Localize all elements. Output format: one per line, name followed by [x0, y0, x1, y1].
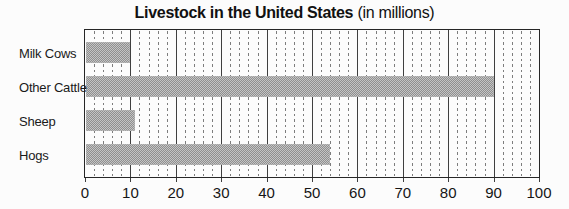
x-tick-label-20: 20 — [167, 184, 184, 201]
x-axis-tick — [494, 178, 495, 182]
grid-minor-line — [430, 31, 431, 176]
grid-minor-line — [366, 31, 367, 176]
x-tick-label-70: 70 — [394, 184, 411, 201]
grid-minor-line — [512, 31, 513, 176]
x-tick-label-10: 10 — [122, 184, 139, 201]
chart-page: Livestock in the United States (in milli… — [0, 0, 569, 209]
x-tick-label-80: 80 — [440, 184, 457, 201]
x-axis-tick — [176, 178, 177, 182]
bar-sheep — [86, 110, 135, 131]
grid-minor-line — [530, 31, 531, 176]
grid-minor-line — [485, 31, 486, 176]
grid-minor-line — [376, 31, 377, 176]
bar-hogs — [86, 144, 330, 165]
x-axis-tick — [267, 178, 268, 182]
grid-major-line — [403, 30, 404, 177]
x-tick-label-30: 30 — [213, 184, 230, 201]
grid-minor-line — [439, 31, 440, 176]
category-label-sheep: Sheep — [19, 113, 56, 128]
grid-minor-line — [503, 31, 504, 176]
grid-minor-line — [466, 31, 467, 176]
grid-minor-line — [330, 31, 331, 176]
grid-major-line — [357, 30, 358, 177]
x-axis-tick — [403, 178, 404, 182]
category-label-other-cattle: Other Cattle — [19, 79, 87, 94]
x-tick-label-0: 0 — [81, 184, 89, 201]
grid-major-line — [448, 30, 449, 177]
grid-minor-line — [421, 31, 422, 176]
x-tick-label-60: 60 — [349, 184, 366, 201]
x-tick-label-90: 90 — [485, 184, 502, 201]
x-axis-tick — [130, 178, 131, 182]
chart-title-suffix: (in millions) — [353, 4, 434, 21]
category-label-milk-cows: Milk Cows — [19, 45, 76, 60]
grid-major-line — [494, 30, 495, 177]
grid-minor-line — [475, 31, 476, 176]
x-tick-label-50: 50 — [304, 184, 321, 201]
chart-title-main: Livestock in the United States — [135, 4, 354, 21]
bar-other-cattle — [86, 76, 494, 97]
chart-title: Livestock in the United States (in milli… — [0, 4, 569, 22]
x-axis-tick — [221, 178, 222, 182]
grid-minor-line — [348, 31, 349, 176]
x-axis-tick — [539, 178, 540, 182]
grid-minor-line — [339, 31, 340, 176]
grid-minor-line — [385, 31, 386, 176]
x-axis-tick — [312, 178, 313, 182]
x-tick-label-40: 40 — [258, 184, 275, 201]
grid-minor-line — [521, 31, 522, 176]
grid-minor-line — [457, 31, 458, 176]
x-axis-tick — [357, 178, 358, 182]
x-axis-tick — [85, 178, 86, 182]
x-axis-tick — [448, 178, 449, 182]
bar-milk-cows — [86, 42, 130, 63]
grid-minor-line — [394, 31, 395, 176]
category-label-hogs: Hogs — [19, 147, 49, 162]
grid-minor-line — [412, 31, 413, 176]
x-tick-label-100: 100 — [526, 184, 551, 201]
